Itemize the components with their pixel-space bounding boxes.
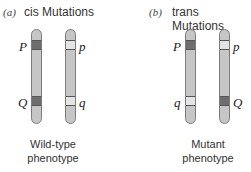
- panel-b-caption-line1: Mutant: [163, 137, 251, 151]
- chromosome-a1: [31, 29, 42, 124]
- panel-b-title: trans Mutations: [172, 5, 251, 33]
- band-a1-upper: [32, 40, 41, 50]
- label-b1-upper: P: [173, 40, 181, 53]
- chromosome-a2: [65, 29, 76, 124]
- label-a1-lower: Q: [18, 96, 27, 109]
- panel-a-caption-line2: phenotype: [8, 151, 98, 165]
- band-b2-upper: [220, 40, 229, 50]
- label-b1-lower: q: [174, 96, 181, 109]
- panel-b-tag: (b): [149, 6, 162, 18]
- panel-b-caption-line2: phenotype: [163, 151, 251, 165]
- chromosome-b2: [219, 29, 230, 124]
- band-b1-lower: [186, 96, 195, 106]
- band-a2-upper: [66, 40, 75, 50]
- label-b2-lower: Q: [233, 96, 242, 109]
- label-a2-lower: q: [79, 96, 86, 109]
- band-b2-lower: [220, 96, 229, 106]
- band-a2-lower: [66, 96, 75, 106]
- panel-a-caption: Wild-type phenotype: [8, 137, 98, 165]
- panel-a-title: cis Mutations: [24, 5, 94, 19]
- panel-a-tag: (a): [3, 6, 16, 18]
- label-a1-upper: P: [19, 40, 27, 53]
- band-b1-upper: [186, 40, 195, 50]
- band-a1-lower: [32, 96, 41, 106]
- panel-b-caption: Mutant phenotype: [163, 137, 251, 165]
- label-a2-upper: p: [79, 40, 86, 53]
- chromosome-b1: [185, 29, 196, 124]
- label-b2-upper: p: [233, 40, 240, 53]
- panel-a-caption-line1: Wild-type: [8, 137, 98, 151]
